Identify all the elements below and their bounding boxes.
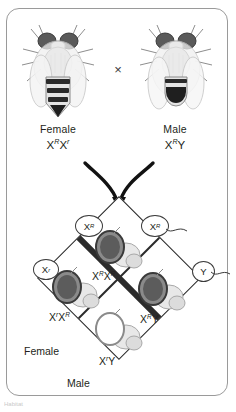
figure-caption-fragment: Habitat [4, 401, 154, 411]
parent-female-sex: Female [10, 123, 106, 136]
female-allele2-base: X [59, 139, 67, 151]
gamete-right-leader [211, 267, 231, 279]
parent-male-fly-icon [137, 19, 215, 119]
cross-symbol: × [107, 63, 129, 76]
offspring-fly-bottom-icon [90, 309, 146, 357]
geno-bottom-b1: X [99, 355, 106, 367]
geno-left-s2: R [65, 311, 70, 318]
geno-right-b1: X [140, 313, 147, 325]
geno-right-b2: Y [152, 313, 159, 325]
offspring-genotype-bottom: XrY [99, 355, 115, 367]
offspring-female-group-label: Female [24, 345, 59, 357]
geno-bottom-b2: Y [108, 355, 115, 367]
gamete-top-right-leader [166, 223, 188, 235]
parent-female-fly-icon [19, 19, 97, 119]
geno-top-s2: R [111, 270, 116, 277]
geno-left-b1: X [49, 311, 56, 323]
gamete-r-base: Y [200, 266, 206, 277]
parent-female-label: Female XRXr [10, 123, 106, 152]
gamete-bubble-top-left: XR [75, 215, 103, 237]
parent-male-label: Male XRY [127, 123, 223, 152]
punnett-square: XRXR XrXR XRY XrY XR XR Xr Y [7, 205, 229, 395]
figure-panel: × Fe [6, 8, 228, 396]
male-allele2-base: Y [178, 139, 186, 151]
parent-male-genotype: XRY [127, 138, 223, 152]
geno-top-b2: X [104, 270, 111, 282]
female-allele2-sup: r [67, 138, 69, 146]
gamete-bubble-left: Xr [33, 259, 59, 280]
offspring-male-group-label: Male [67, 377, 90, 389]
offspring-genotype-right: XRY [140, 313, 159, 325]
geno-top-b1: X [92, 270, 99, 282]
parent-generation: × Fe [7, 15, 229, 165]
offspring-genotype-top: XRXR [92, 270, 115, 282]
gamete-bubble-top-right: XR [141, 215, 169, 237]
parent-female-genotype: XRXr [10, 138, 106, 152]
offspring-genotype-left: XrXR [49, 311, 70, 323]
parent-male-sex: Male [127, 123, 223, 136]
